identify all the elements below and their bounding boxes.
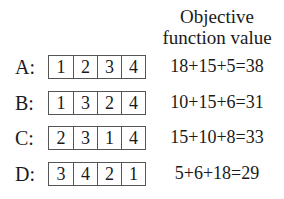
- solution-row-b: B: 1 3 2 4 10+15+6=31: [0, 91, 284, 115]
- row-label: D:: [15, 163, 35, 185]
- solution-row-c: C: 2 3 1 4 15+10+8=33: [0, 126, 284, 150]
- perm-cell: 3: [97, 56, 121, 78]
- perm-cell: 4: [121, 127, 145, 149]
- objective-value: 10+15+6=31: [152, 91, 282, 114]
- solution-row-d: D: 3 4 2 1 5+6+18=29: [0, 162, 284, 186]
- perm-cell: 1: [121, 163, 145, 185]
- permutation-box: 3 4 2 1: [48, 162, 146, 186]
- perm-cell: 3: [73, 92, 97, 114]
- objective-value: 18+15+5=38: [152, 55, 282, 78]
- solution-row-a: A: 1 2 3 4 18+15+5=38: [0, 55, 284, 79]
- objective-value: 15+10+8=33: [152, 126, 282, 149]
- perm-cell: 1: [49, 56, 73, 78]
- row-label: C:: [15, 127, 34, 149]
- permutation-box: 2 3 1 4: [48, 126, 146, 150]
- perm-cell: 2: [97, 163, 121, 185]
- perm-cell: 4: [73, 163, 97, 185]
- perm-cell: 1: [97, 127, 121, 149]
- row-label: A:: [15, 56, 35, 78]
- permutation-box: 1 3 2 4: [48, 91, 146, 115]
- perm-cell: 2: [49, 127, 73, 149]
- perm-cell: 3: [49, 163, 73, 185]
- perm-cell: 4: [121, 56, 145, 78]
- header-line-2: function value: [150, 27, 284, 48]
- perm-cell: 1: [49, 92, 73, 114]
- perm-cell: 4: [121, 92, 145, 114]
- objective-value: 5+6+18=29: [152, 162, 282, 185]
- objective-function-header: Objective function value: [150, 6, 284, 48]
- row-label: B:: [15, 92, 34, 114]
- perm-cell: 3: [73, 127, 97, 149]
- perm-cell: 2: [73, 56, 97, 78]
- permutation-box: 1 2 3 4: [48, 55, 146, 79]
- header-line-1: Objective: [150, 6, 284, 27]
- perm-cell: 2: [97, 92, 121, 114]
